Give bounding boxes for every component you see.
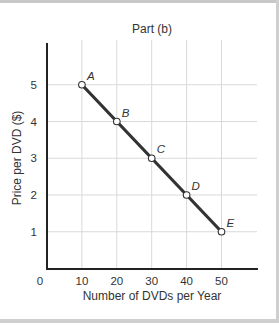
y-tick-label: 4: [31, 116, 38, 128]
chart-frame: Part (b) 01020304050 12345 Number of DVD…: [0, 0, 279, 325]
x-tick-label: 40: [180, 275, 193, 287]
y-tick-labels: 12345: [31, 79, 38, 238]
y-tick-label: 1: [31, 226, 37, 238]
point-label-c: C: [157, 143, 166, 155]
grid: [47, 40, 257, 269]
point-label-b: B: [122, 107, 130, 119]
chart-title: Part (b): [132, 22, 172, 36]
point-label-e: E: [227, 217, 235, 229]
point-marker-c: [148, 155, 155, 162]
y-tick-label: 2: [31, 189, 37, 201]
y-tick-label: 3: [31, 152, 37, 164]
point-label-a: A: [86, 70, 95, 82]
point-marker-a: [79, 81, 86, 88]
x-tick-label: 20: [110, 275, 123, 287]
x-tick-label: 0: [37, 275, 43, 287]
y-axis-label: Price per DVD ($): [10, 111, 24, 206]
point-marker-e: [218, 228, 225, 235]
x-tick-labels: 01020304050: [37, 275, 228, 287]
point-marker-d: [183, 192, 190, 199]
demand-curve: ABCDE: [79, 70, 235, 235]
point-label-d: D: [192, 180, 200, 192]
point-marker-b: [114, 118, 121, 125]
demand-chart: Part (b) 01020304050 12345 Number of DVD…: [0, 0, 279, 325]
y-tick-label: 5: [31, 79, 37, 91]
x-axis-label: Number of DVDs per Year: [83, 289, 222, 303]
x-tick-label: 30: [145, 275, 158, 287]
x-tick-label: 10: [76, 275, 89, 287]
x-tick-label: 50: [215, 275, 228, 287]
